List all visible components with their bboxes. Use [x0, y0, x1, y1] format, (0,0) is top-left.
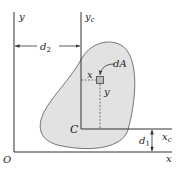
y-axis-label: y — [18, 11, 25, 22]
area-element — [97, 77, 104, 84]
parallel-axis-diagram: y yc d2 dA x y C xc d1 x O — [0, 0, 184, 174]
d1-label: d1 — [139, 135, 150, 148]
yc-axis-label: yc — [84, 11, 95, 24]
origin-label: O — [3, 154, 11, 165]
d2-label: d2 — [40, 41, 51, 54]
local-x-label: x — [87, 69, 93, 80]
x-axis-label: x — [166, 153, 172, 164]
area-element-label: dA — [113, 58, 127, 69]
centroid-label: C — [70, 123, 79, 136]
local-y-label: y — [103, 86, 110, 97]
xc-axis-label: xc — [162, 131, 172, 144]
